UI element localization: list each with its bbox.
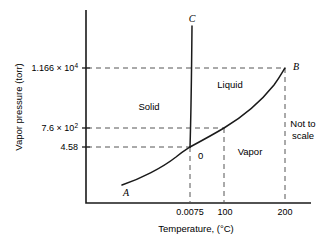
x-tick-label-200: 200 xyxy=(277,207,292,217)
y-axis-title: Vapor pressure (torr) xyxy=(13,63,24,150)
y-tick-labels: 1.166 × 104 7.6 × 102 4.58 xyxy=(32,62,79,153)
y-tick-label-760: 7.6 × 102 xyxy=(42,122,79,134)
sublimation-curve xyxy=(122,147,190,185)
region-label-liquid: Liquid xyxy=(217,79,242,90)
not-to-scale-note: Not to scale xyxy=(290,118,315,141)
x-tick-label-triple-point: 0.0075 xyxy=(176,207,204,217)
region-label-solid: Solid xyxy=(138,101,159,112)
axis-lines xyxy=(86,10,311,203)
horizontal-guides xyxy=(87,68,285,147)
x-axis-title: Temperature, (°C) xyxy=(158,223,234,234)
fusion-curve xyxy=(190,26,192,147)
x-tick-label-100: 100 xyxy=(217,207,232,217)
phase-diagram-figure: 1.166 × 104 7.6 × 102 4.58 0.0075 100 20… xyxy=(0,0,331,246)
note-line-1: Not to xyxy=(290,118,315,129)
note-line-2: scale xyxy=(292,130,314,141)
x-tick-labels: 0.0075 100 200 xyxy=(176,207,292,217)
point-label-triple-point: 0 xyxy=(198,150,203,161)
region-label-vapor: Vapor xyxy=(238,146,263,157)
point-label-b: B xyxy=(293,61,299,72)
point-label-a: A xyxy=(122,187,130,198)
point-label-c: C xyxy=(189,13,196,24)
axes-group xyxy=(86,10,311,203)
y-tick-label-458: 4.58 xyxy=(60,142,78,152)
phase-diagram-chart: 1.166 × 104 7.6 × 102 4.58 0.0075 100 20… xyxy=(0,0,331,246)
y-tick-label-critical: 1.166 × 104 xyxy=(32,62,79,74)
